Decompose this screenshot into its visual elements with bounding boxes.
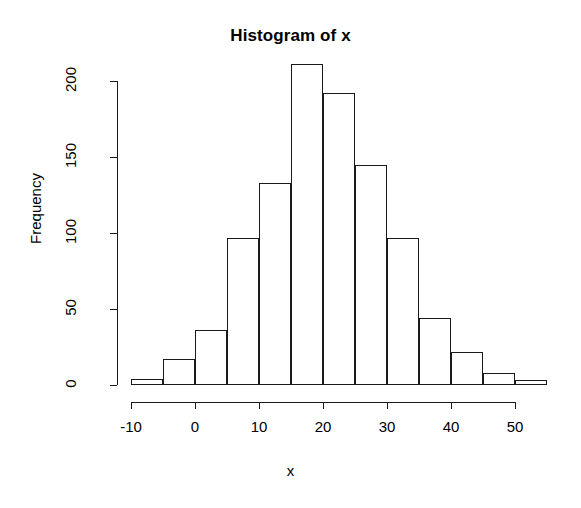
x-axis-tick-label: 10 xyxy=(229,418,289,435)
histogram-bar xyxy=(323,93,355,385)
histogram-bar xyxy=(163,359,195,385)
histogram-bar xyxy=(355,165,387,385)
x-axis-tick-label: -10 xyxy=(101,418,161,435)
x-axis-title: x xyxy=(0,462,581,479)
y-axis-tick xyxy=(110,157,117,158)
y-axis-tick xyxy=(110,233,117,234)
x-axis-tick xyxy=(515,402,516,409)
x-axis-tick xyxy=(451,402,452,409)
histogram-plot: Histogram of x 050100150200 Frequency -1… xyxy=(0,0,581,508)
y-axis-tick xyxy=(110,385,117,386)
histogram-bar xyxy=(451,352,483,385)
y-axis-tick-label: 0 xyxy=(62,354,79,414)
y-axis-tick-label: 200 xyxy=(62,50,79,110)
plot-panel: 050100150200 Frequency -1001020304050 x xyxy=(0,0,581,508)
x-axis-tick xyxy=(259,402,260,409)
y-axis-tick-label: 150 xyxy=(62,126,79,186)
histogram-bar xyxy=(483,373,515,385)
histogram-bar xyxy=(131,379,163,385)
x-axis-tick xyxy=(387,402,388,409)
histogram-bar xyxy=(195,330,227,385)
x-axis-tick xyxy=(131,402,132,409)
y-axis-title: Frequency xyxy=(27,129,44,289)
y-axis-tick-label: 100 xyxy=(62,202,79,262)
histogram-bar xyxy=(387,238,419,385)
x-axis-tick xyxy=(323,402,324,409)
histogram-bar xyxy=(259,183,291,385)
histogram-bar xyxy=(419,318,451,385)
histogram-bar xyxy=(515,380,547,385)
y-axis-tick-label: 50 xyxy=(62,278,79,338)
x-axis-tick-label: 0 xyxy=(165,418,225,435)
y-axis-line xyxy=(117,81,118,385)
x-axis-tick xyxy=(195,402,196,409)
histogram-bar xyxy=(291,64,323,385)
x-axis-tick-label: 40 xyxy=(421,418,481,435)
x-axis-tick-label: 30 xyxy=(357,418,417,435)
y-axis-tick xyxy=(110,81,117,82)
y-axis-tick xyxy=(110,309,117,310)
x-axis-tick-label: 20 xyxy=(293,418,353,435)
histogram-bar xyxy=(227,238,259,385)
x-axis-tick-label: 50 xyxy=(485,418,545,435)
